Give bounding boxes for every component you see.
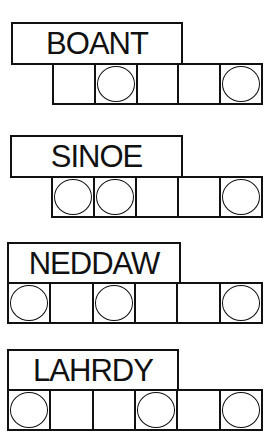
answer-cell-2[interactable] (51, 391, 93, 429)
scrambled-word: SINOE (51, 141, 142, 172)
scrambled-word-box: SINOE (10, 135, 183, 178)
answer-cell-1[interactable] (53, 178, 95, 216)
answer-cell-4[interactable] (136, 284, 178, 322)
answer-cells (7, 389, 263, 431)
scrambled-word-box: BOANT (11, 22, 183, 65)
answer-cell-2[interactable] (95, 178, 137, 216)
scrambled-word: NEDDAW (29, 248, 160, 279)
circle-marker-icon (10, 285, 48, 321)
answer-cells (52, 63, 263, 105)
circle-marker-icon (97, 66, 135, 102)
answer-cell-4[interactable] (136, 391, 178, 429)
answer-cell-5[interactable] (221, 65, 261, 103)
circle-marker-icon (95, 285, 133, 321)
answer-cell-6[interactable] (221, 284, 261, 322)
circle-marker-icon (54, 179, 92, 215)
answer-cell-2[interactable] (96, 65, 138, 103)
answer-cells (51, 176, 263, 218)
answer-cell-4[interactable] (179, 178, 221, 216)
answer-cell-3[interactable] (94, 391, 136, 429)
answer-cell-5[interactable] (221, 178, 261, 216)
answer-cell-2[interactable] (51, 284, 93, 322)
circle-marker-icon (137, 392, 175, 428)
circle-marker-icon (222, 179, 260, 215)
circle-marker-icon (96, 179, 134, 215)
scrambled-word: LAHRDY (33, 355, 153, 386)
answer-cells (7, 282, 263, 324)
answer-cell-3[interactable] (94, 284, 136, 322)
circle-marker-icon (10, 392, 48, 428)
answer-cell-5[interactable] (178, 391, 220, 429)
scrambled-word: BOANT (46, 28, 148, 59)
answer-cell-5[interactable] (178, 284, 220, 322)
answer-cell-1[interactable] (54, 65, 96, 103)
circle-marker-icon (222, 392, 260, 428)
answer-cell-3[interactable] (137, 178, 179, 216)
answer-cell-1[interactable] (9, 391, 51, 429)
answer-cell-1[interactable] (9, 284, 51, 322)
circle-marker-icon (222, 285, 260, 321)
scrambled-word-box: NEDDAW (7, 242, 181, 284)
answer-cell-4[interactable] (179, 65, 221, 103)
answer-cell-3[interactable] (138, 65, 180, 103)
answer-cell-6[interactable] (221, 391, 261, 429)
circle-marker-icon (222, 66, 260, 102)
scrambled-word-box: LAHRDY (7, 349, 179, 391)
